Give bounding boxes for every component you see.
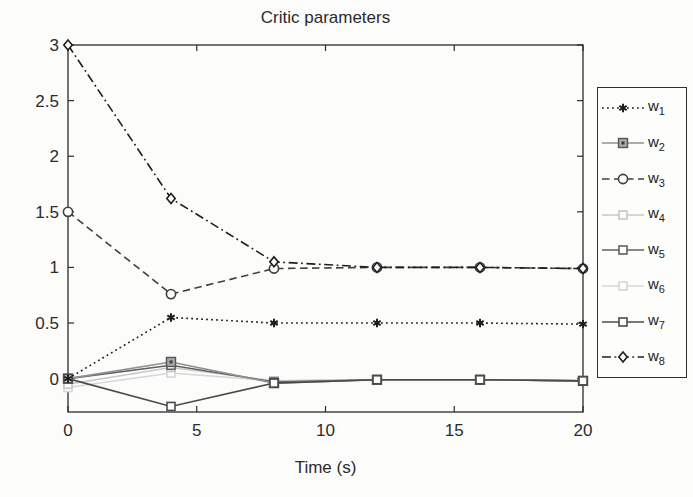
legend-line-sample-w1 [601,98,645,118]
series-w5 [64,361,587,386]
legend-line-sample-w5 [601,240,645,260]
legend-line-sample-w4 [601,205,645,225]
legend-line-sample-w3 [601,169,645,189]
y-tick-label: 1.5 [35,203,59,222]
x-tick-label: 15 [445,421,464,440]
legend-label-w6: w6 [648,276,665,295]
y-tick-label: 0 [50,370,59,389]
legend-box: w1w2w3w4w5w6w7w8 [597,87,687,378]
legend-item-w6: w6 [601,276,686,296]
legend-line-sample-w2 [601,133,645,153]
x-tick-label: 20 [574,421,593,440]
y-tick-label: 3 [50,36,59,55]
legend-label-w3: w3 [648,170,665,189]
y-tick-label: 1 [50,258,59,277]
plot-canvas: 0510152000.511.522.53 [0,0,693,497]
chart-figure: Critic parameters 0510152000.511.522.53 … [0,0,693,497]
legend-label-w4: w4 [648,205,665,224]
legend-item-w2: w2 [601,133,686,153]
x-tick-label: 0 [63,421,72,440]
legend-label-w8: w8 [648,348,665,367]
x-axis-label: Time (s) [68,458,583,478]
legend-line-sample-w6 [601,276,645,296]
y-tick-label: 2 [50,147,59,166]
legend-item-w7: w7 [601,312,686,332]
series-w8 [64,40,587,274]
legend-label-w5: w5 [648,241,665,260]
x-tick-label: 5 [192,421,201,440]
legend-line-sample-w8 [601,347,645,367]
legend-item-w1: w1 [601,98,686,118]
legend-label-w7: w7 [648,312,665,331]
y-tick-label: 2.5 [35,92,59,111]
legend-item-w4: w4 [601,205,686,225]
legend-line-sample-w7 [601,312,645,332]
x-tick-label: 10 [316,421,335,440]
legend-item-w5: w5 [601,240,686,260]
series-w3 [63,207,587,298]
axes-frame [68,45,583,412]
legend-label-w1: w1 [648,98,665,117]
legend-item-w8: w8 [601,347,686,367]
y-tick-label: 0.5 [35,314,59,333]
legend-label-w2: w2 [648,134,665,153]
legend-item-w3: w3 [601,169,686,189]
